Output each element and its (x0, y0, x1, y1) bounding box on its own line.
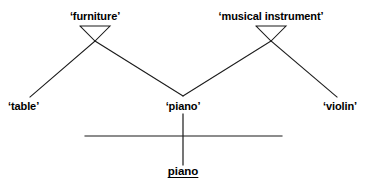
furniture-triangle-group (80, 26, 110, 41)
sense-label-musical-instrument: ‘musical instrument’ (219, 11, 324, 22)
edge-furniture-to-table (30, 41, 95, 97)
sense-label-furniture: ‘furniture’ (70, 11, 120, 22)
edge-furniture-to-piano (95, 41, 183, 96)
leaf-label-violin: ‘violin’ (323, 101, 357, 112)
furniture-triangle-icon (80, 26, 110, 41)
musical-instrument-triangle-group (256, 26, 286, 41)
word-form-piano: piano (168, 166, 199, 178)
leaf-label-table: ‘table’ (8, 101, 39, 112)
edge-musical-instrument-to-piano (183, 41, 271, 96)
edge-musical-instrument-to-violin (271, 41, 337, 97)
semantic-tree-diagram (0, 0, 366, 190)
musical-instrument-triangle-icon (256, 26, 286, 41)
leaf-label-piano: ‘piano’ (166, 101, 201, 112)
